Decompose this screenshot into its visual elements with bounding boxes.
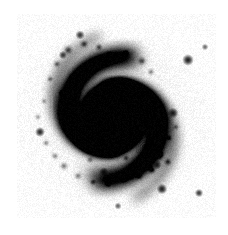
figure-page [0,0,228,235]
galaxy-image-canvas [0,0,228,235]
